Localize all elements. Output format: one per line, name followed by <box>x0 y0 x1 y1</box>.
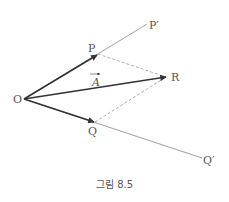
label-q: Q <box>88 125 97 138</box>
label-r: R <box>171 71 180 84</box>
label-o: O <box>13 93 22 106</box>
label-q-prime: Q′ <box>203 154 215 167</box>
figure-caption: 그림 8.5 <box>0 176 229 191</box>
dashed-qr <box>95 77 166 122</box>
vector-diagram: O P P′ R Q Q′ A <box>0 0 229 202</box>
vector-oq <box>24 99 94 122</box>
label-vector-a: A <box>91 76 100 89</box>
label-p-prime: P′ <box>149 19 159 32</box>
label-p: P <box>88 42 96 55</box>
dashed-pr <box>98 54 166 77</box>
figure-canvas: O P P′ R Q Q′ A 그림 8.5 <box>0 0 229 202</box>
vector-op <box>24 55 97 99</box>
